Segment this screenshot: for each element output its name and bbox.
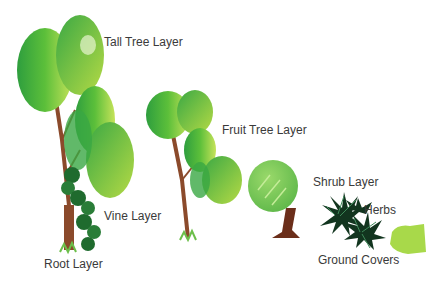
shrub-layer-label: Shrub Layer xyxy=(313,176,378,188)
vine-layer-label: Vine Layer xyxy=(104,210,161,222)
herbs-label: Herbs xyxy=(364,204,396,216)
ground-covers-label: Ground Covers xyxy=(318,254,399,266)
herbs-icon xyxy=(320,192,386,250)
tall-tree-layer-label: Tall Tree Layer xyxy=(104,36,183,48)
shrub-icon xyxy=(248,160,300,238)
forest-garden-diagram: Tall Tree Layer Fruit Tree Layer Shrub L… xyxy=(0,0,446,286)
root-layer-label: Root Layer xyxy=(44,258,103,270)
ground-cover-icon xyxy=(390,224,426,254)
fruit-tree-layer-label: Fruit Tree Layer xyxy=(222,124,307,136)
illustration xyxy=(0,0,446,286)
